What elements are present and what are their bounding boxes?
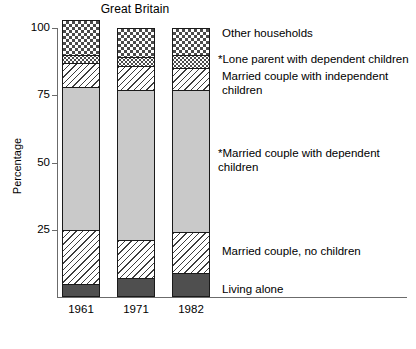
y-tick-mark-75 xyxy=(52,95,58,96)
segment-1971-married-dependent xyxy=(117,90,155,241)
segment-1971-lone-parent xyxy=(117,57,155,65)
segment-1982-married-dependent xyxy=(172,90,210,232)
y-tick-mark-25 xyxy=(52,230,58,231)
segment-1961-lone-parent xyxy=(62,55,100,63)
segment-1982-living-alone xyxy=(172,273,210,297)
legend-label-married-no-children: Married couple, no children xyxy=(222,245,361,259)
segment-1982-married-no-children xyxy=(172,232,210,273)
segment-1961-married-independent xyxy=(62,63,100,87)
y-tick-mark-100 xyxy=(52,28,58,29)
segment-1982-married-independent xyxy=(172,68,210,90)
legend-label-other-households: Other households xyxy=(222,27,313,41)
y-tick-label-50: 50 xyxy=(16,156,50,168)
y-tick-label-75: 75 xyxy=(16,88,50,100)
y-tick-mark-50 xyxy=(52,163,58,164)
stacked-bar-chart: Great Britain Percentage 100 75 50 25 19… xyxy=(0,0,416,349)
x-tick-label-1982: 1982 xyxy=(163,303,219,315)
legend-label-married-dependent: *Married couple with dependent children xyxy=(218,147,380,174)
segment-1961-living-alone xyxy=(62,284,100,298)
segment-1982-lone-parent xyxy=(172,55,210,69)
x-tick-label-1961: 1961 xyxy=(53,303,109,315)
segment-1971-other-households xyxy=(117,28,155,58)
segment-1971-married-no-children xyxy=(117,240,155,278)
legend-label-living-alone: Living alone xyxy=(222,283,283,297)
y-tick-label-100: 100 xyxy=(16,21,50,33)
segment-1961-married-no-children xyxy=(62,230,100,283)
segment-1971-living-alone xyxy=(117,278,155,297)
y-tick-label-25: 25 xyxy=(16,223,50,235)
segment-1971-married-independent xyxy=(117,66,155,90)
chart-title: Great Britain xyxy=(75,2,195,16)
legend-label-lone-parent: *Lone parent with dependent children xyxy=(218,53,409,67)
segment-1961-married-dependent xyxy=(62,87,100,230)
segment-1982-other-households xyxy=(172,28,210,55)
segment-1961-other-households xyxy=(62,20,100,55)
x-axis-line xyxy=(57,297,407,298)
x-tick-label-1971: 1971 xyxy=(108,303,164,315)
legend-label-married-independent: Married couple with independent children xyxy=(222,70,388,97)
